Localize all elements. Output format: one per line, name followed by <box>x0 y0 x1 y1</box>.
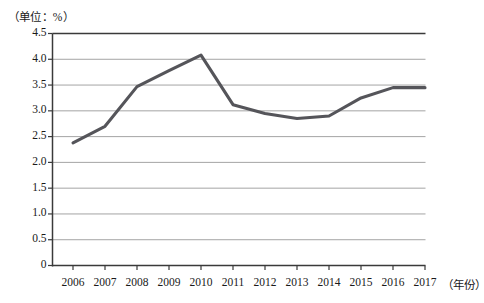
x-tick-label: 2011 <box>215 276 251 288</box>
x-axis-caption: （年份） <box>442 276 484 292</box>
y-tick-label: 0.5 <box>13 232 47 244</box>
x-tick-label: 2010 <box>183 276 219 288</box>
x-tick-label: 2007 <box>87 276 123 288</box>
x-tick-label: 2006 <box>55 276 91 288</box>
x-tick-label: 2015 <box>343 276 379 288</box>
y-tick-label: 1.0 <box>13 206 47 218</box>
x-tick-label: 2014 <box>311 276 347 288</box>
gridlines <box>53 34 426 240</box>
x-tick-label: 2008 <box>119 276 155 288</box>
y-tick-label: 0 <box>13 258 47 270</box>
x-tick-label: 2017 <box>407 276 443 288</box>
axis-ticks <box>48 34 425 271</box>
x-tick-label: 2016 <box>375 276 411 288</box>
axis-lines <box>53 34 426 267</box>
y-tick-label: 1.5 <box>13 181 47 193</box>
data-series-line <box>73 55 425 143</box>
x-tick-label: 2013 <box>279 276 315 288</box>
y-tick-label: 3.0 <box>13 103 47 115</box>
x-tick-label: 2012 <box>247 276 283 288</box>
y-tick-label: 2.0 <box>13 155 47 167</box>
x-tick-label: 2009 <box>151 276 187 288</box>
y-tick-label: 4.5 <box>13 26 47 38</box>
y-tick-label: 4.0 <box>13 52 47 64</box>
y-tick-label: 2.5 <box>13 129 47 141</box>
y-tick-label: 3.5 <box>13 78 47 90</box>
